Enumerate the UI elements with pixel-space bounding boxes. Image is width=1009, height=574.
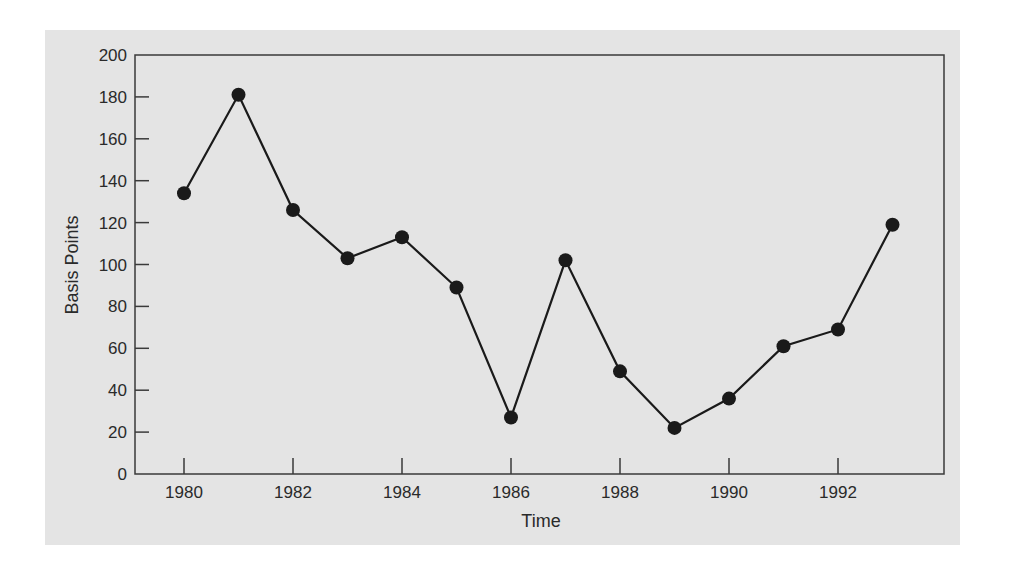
y-tick-label: 60 xyxy=(108,339,127,358)
x-tick-label: 1986 xyxy=(492,483,530,502)
y-tick-label: 100 xyxy=(99,256,127,275)
data-point-1989 xyxy=(668,421,682,435)
data-point-1988 xyxy=(613,364,627,378)
data-point-1991 xyxy=(777,339,791,353)
data-point-1980 xyxy=(177,186,191,200)
data-point-1985 xyxy=(450,281,464,295)
line-chart: 020406080100120140160180200 198019821984… xyxy=(0,0,1009,574)
data-point-1992 xyxy=(831,322,845,336)
x-tick-label: 1992 xyxy=(819,483,857,502)
y-tick-label: 120 xyxy=(99,214,127,233)
y-tick-label: 160 xyxy=(99,130,127,149)
x-axis-title: Time xyxy=(521,511,560,531)
data-point-1981 xyxy=(232,88,246,102)
y-tick-label: 20 xyxy=(108,423,127,442)
x-tick-label: 1984 xyxy=(383,483,421,502)
data-point-1987 xyxy=(559,253,573,267)
y-tick-label: 40 xyxy=(108,381,127,400)
data-point-1986 xyxy=(504,410,518,424)
series-line xyxy=(184,95,893,428)
y-tick-label: 200 xyxy=(99,46,127,65)
y-axis-title: Basis Points xyxy=(62,215,82,314)
data-point-1983 xyxy=(341,251,355,265)
data-point-1993 xyxy=(886,218,900,232)
y-axis-ticks: 020406080100120140160180200 xyxy=(99,46,149,484)
y-tick-label: 80 xyxy=(108,297,127,316)
x-axis-ticks: 1980198219841986198819901992 xyxy=(165,458,857,502)
x-tick-label: 1988 xyxy=(601,483,639,502)
x-tick-label: 1982 xyxy=(274,483,312,502)
data-point-1984 xyxy=(395,230,409,244)
data-point-1982 xyxy=(286,203,300,217)
series-markers xyxy=(177,88,900,435)
y-tick-label: 180 xyxy=(99,88,127,107)
x-tick-label: 1990 xyxy=(710,483,748,502)
data-point-1990 xyxy=(722,392,736,406)
x-tick-label: 1980 xyxy=(165,483,203,502)
y-tick-label: 0 xyxy=(118,465,127,484)
plot-frame xyxy=(135,55,944,474)
y-tick-label: 140 xyxy=(99,172,127,191)
